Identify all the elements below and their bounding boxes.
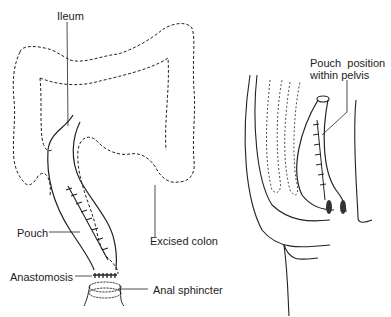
label-pouch-position-line1: Pouch position xyxy=(310,57,385,69)
label-pouch: Pouch xyxy=(17,227,48,239)
label-ileum: Ileum xyxy=(57,10,84,22)
anastomosis-sutures xyxy=(93,273,117,278)
pelvic-sphincter xyxy=(326,200,346,214)
pelvis-outline xyxy=(245,75,372,316)
label-pouch-position-line2: within pelvis xyxy=(310,69,369,81)
diagram-drawing xyxy=(0,0,391,317)
ileal-pouch-diagram: Ileum Pouch Excised colon Anastomosis An… xyxy=(0,0,391,317)
rectum-sacrum xyxy=(267,80,301,195)
label-anal-sphincter: Anal sphincter xyxy=(153,284,223,296)
label-excised-colon: Excised colon xyxy=(150,235,218,247)
pouch-outline xyxy=(48,115,117,270)
label-anastomosis: Anastomosis xyxy=(10,271,73,283)
pouch-sutures xyxy=(66,186,108,260)
anal-sphincter-ring xyxy=(89,282,121,298)
pouch-in-pelvis xyxy=(297,96,346,212)
